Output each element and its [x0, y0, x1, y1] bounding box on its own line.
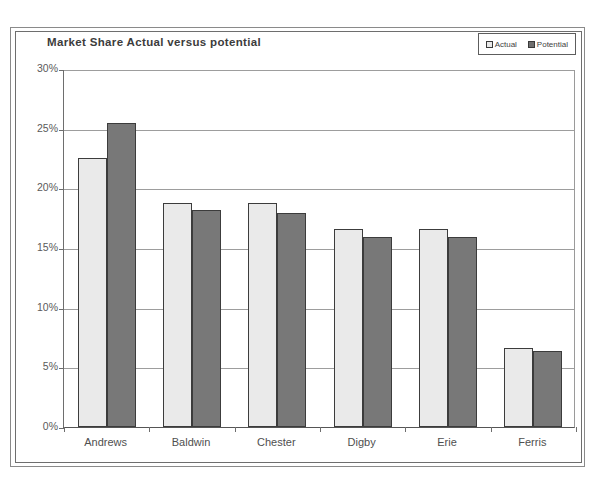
gridline [64, 189, 574, 190]
legend-entry-potential: Potential [528, 40, 568, 49]
bar-group [419, 71, 477, 427]
bar-erie-actual [419, 229, 448, 427]
gridline [64, 70, 574, 71]
x-axis-label-chester: Chester [257, 436, 296, 448]
x-axis-tick [405, 427, 406, 432]
x-axis-label-erie: Erie [437, 436, 457, 448]
bar-ferris-potential [533, 351, 562, 427]
y-axis-tick [59, 189, 64, 190]
legend-label-potential: Potential [537, 40, 568, 49]
legend-entry-actual: Actual [486, 40, 517, 49]
x-axis-labels: AndrewsBaldwinChesterDigbyErieFerris [0, 436, 597, 456]
scan-artifact [0, 0, 597, 14]
gridline [64, 130, 574, 131]
bar-group [78, 71, 136, 427]
legend-swatch-potential-icon [528, 41, 535, 48]
y-axis-tick [59, 130, 64, 131]
y-axis-tick [59, 368, 64, 369]
bar-group [163, 71, 221, 427]
bar-group [248, 71, 306, 427]
bar-andrews-actual [78, 158, 107, 427]
plot-area [63, 70, 575, 428]
y-axis-tick [59, 70, 64, 71]
y-axis-tick [59, 249, 64, 250]
bar-ferris-actual [504, 348, 533, 427]
x-axis-label-baldwin: Baldwin [172, 436, 211, 448]
legend-label-actual: Actual [495, 40, 517, 49]
bar-baldwin-potential [192, 210, 221, 427]
legend-swatch-actual-icon [486, 41, 493, 48]
y-axis-tick [59, 309, 64, 310]
x-axis-tick [149, 427, 150, 432]
chart-legend: Actual Potential [478, 33, 576, 55]
bar-andrews-potential [107, 123, 136, 427]
x-axis-tick [576, 427, 577, 432]
x-axis-label-digby: Digby [348, 436, 376, 448]
bar-chester-actual [248, 203, 277, 427]
bar-digby-actual [334, 229, 363, 427]
bar-group [334, 71, 392, 427]
bar-chester-potential [277, 213, 306, 427]
gridline [64, 368, 574, 369]
bar-baldwin-actual [163, 203, 192, 427]
x-axis-tick [320, 427, 321, 432]
gridline [64, 249, 574, 250]
x-axis-tick [64, 427, 65, 432]
bar-digby-potential [363, 237, 392, 427]
chart-title: Market Share Actual versus potential [47, 36, 261, 48]
gridline [64, 309, 574, 310]
x-axis-tick [235, 427, 236, 432]
x-axis-label-ferris: Ferris [518, 436, 546, 448]
bar-erie-potential [448, 237, 477, 427]
x-axis-tick [491, 427, 492, 432]
bar-group [504, 71, 562, 427]
x-axis-label-andrews: Andrews [84, 436, 127, 448]
